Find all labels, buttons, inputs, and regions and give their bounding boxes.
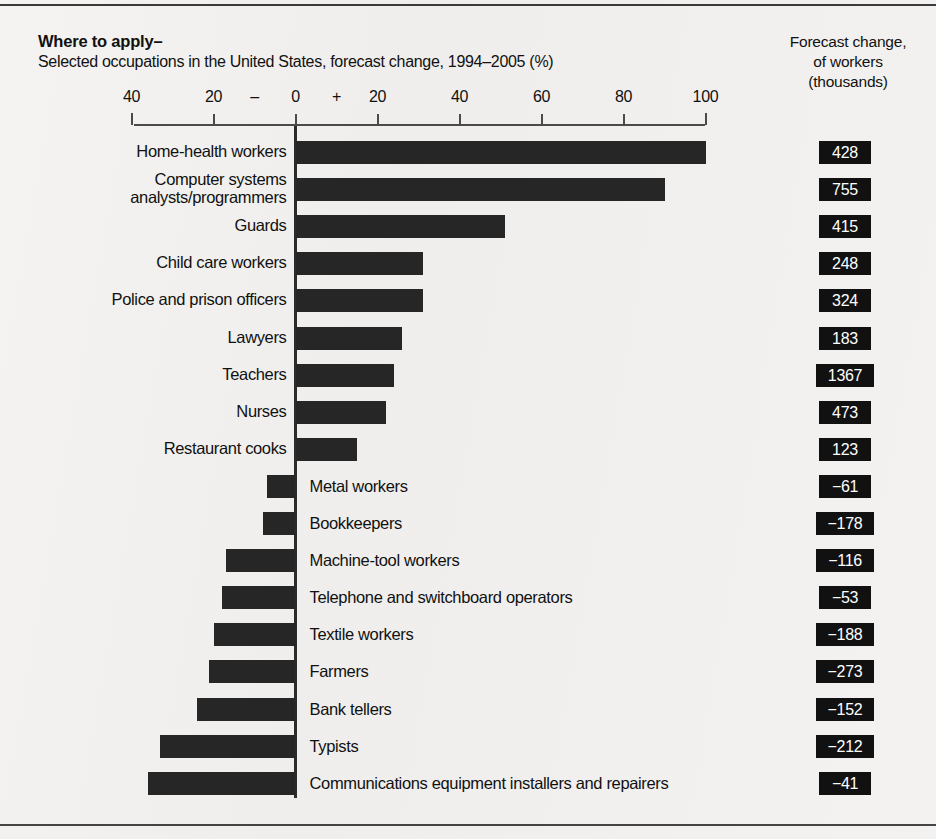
value-badge: 1367 — [816, 364, 874, 387]
bar — [222, 586, 296, 609]
value-badge: −212 — [816, 735, 874, 758]
bar — [296, 364, 394, 387]
value-badge: 473 — [819, 401, 871, 424]
bar — [226, 549, 296, 572]
bar-category-label: Home-health workers — [136, 143, 286, 159]
bar-category-label: Bookkeepers — [310, 515, 402, 531]
bar-category-label: Farmers — [310, 663, 369, 679]
bar-category-label: Machine-tool workers — [310, 552, 460, 568]
bar-category-label-line2: analysts/programmers — [130, 188, 286, 206]
bar — [296, 438, 358, 461]
bar — [263, 512, 296, 535]
value-badge: 428 — [819, 141, 871, 164]
value-badge: 248 — [819, 252, 871, 275]
value-badge: −41 — [819, 772, 871, 795]
value-badge: −152 — [816, 698, 874, 721]
bar-category-label: Textile workers — [310, 626, 414, 642]
value-badge: −188 — [816, 623, 874, 646]
value-badge: −61 — [819, 475, 871, 498]
bar-category-label: Communications equipment installers and … — [310, 775, 669, 791]
bar-category-label: Police and prison officers — [112, 291, 287, 307]
bar-category-label: Computer systemsanalysts/programmers — [130, 170, 286, 206]
bar-category-label: Child care workers — [156, 254, 286, 270]
bar — [296, 327, 403, 350]
bar — [296, 252, 423, 275]
bar-category-label: Guards — [234, 217, 286, 233]
bar — [296, 178, 665, 201]
value-badge: −178 — [816, 512, 874, 535]
bar — [209, 660, 295, 683]
bar-category-label: Bank tellers — [310, 701, 392, 717]
bar-category-label-line1: Computer systems — [130, 170, 286, 188]
plot-area: Home-health workers428Computer systemsan… — [0, 0, 936, 839]
value-badge: 755 — [819, 178, 871, 201]
bar — [296, 401, 386, 424]
figure-root: Where to apply– Selected occupations in … — [0, 0, 936, 839]
bar — [267, 475, 296, 498]
bar-category-label: Teachers — [222, 366, 286, 382]
value-badge: −116 — [816, 549, 874, 572]
bar-category-label: Lawyers — [228, 329, 287, 345]
bar-category-label: Metal workers — [310, 478, 408, 494]
bar-category-label: Nurses — [236, 403, 286, 419]
value-badge: 415 — [819, 215, 871, 238]
value-badge: 183 — [819, 327, 871, 350]
bar-category-label: Typists — [310, 738, 359, 754]
value-badge: 123 — [819, 438, 871, 461]
bar-category-label: Telephone and switchboard operators — [310, 589, 573, 605]
bar — [214, 623, 296, 646]
bar — [148, 772, 296, 795]
value-badge: −53 — [819, 586, 871, 609]
value-badge: 324 — [819, 289, 871, 312]
bar — [296, 215, 505, 238]
value-badge: −273 — [816, 660, 874, 683]
bar — [296, 141, 706, 164]
bar — [160, 735, 295, 758]
bar — [197, 698, 295, 721]
bar — [296, 289, 423, 312]
bar-category-label: Restaurant cooks — [164, 440, 287, 456]
